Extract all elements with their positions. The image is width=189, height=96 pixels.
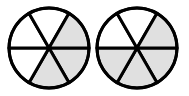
circle-1 — [9, 8, 89, 88]
circle-2 — [97, 8, 177, 88]
fraction-circles-diagram — [0, 0, 189, 96]
